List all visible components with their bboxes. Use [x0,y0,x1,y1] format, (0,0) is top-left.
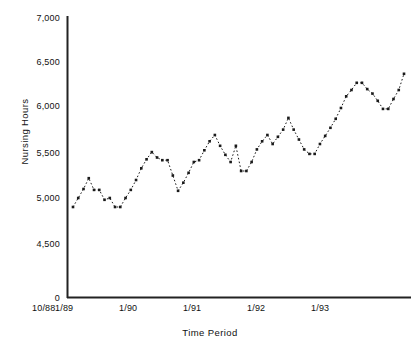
data-point [340,107,343,110]
data-point [182,181,185,184]
data-point [214,134,217,137]
data-point [324,135,327,138]
data-point [240,170,243,173]
data-point [371,92,374,95]
data-point [277,136,280,139]
data-point [156,156,159,159]
data-point [87,177,90,180]
data-point [256,148,259,151]
data-point [250,161,253,164]
data-point [172,174,175,177]
data-point [166,159,169,162]
data-point [72,206,75,209]
data-point [376,100,379,103]
data-point [119,206,122,209]
data-series-nursing-hours [72,73,406,209]
data-point [361,82,364,85]
data-point [103,199,106,202]
data-point [203,149,206,152]
data-point [108,197,111,200]
data-point [345,95,348,98]
data-point [82,188,85,191]
data-point [282,128,285,131]
data-point [193,161,196,164]
data-point [224,154,227,157]
data-point [319,143,322,146]
data-point [198,159,201,162]
data-point [292,128,295,131]
data-point [124,197,127,200]
data-point [287,117,290,120]
plot-area [0,0,420,345]
data-point [151,151,154,154]
data-point [271,143,274,146]
data-point [235,145,238,148]
data-point [98,189,101,192]
data-point [93,189,96,192]
nursing-hours-chart: Nursing Hours 7,000 6,500 6,000 5,500 5,… [0,0,420,345]
data-point [208,140,211,143]
data-point [403,73,406,76]
data-point [392,98,395,101]
data-point [355,82,358,85]
series-polyline [73,74,404,207]
data-point [387,108,390,111]
data-point [77,197,80,200]
data-point [261,140,264,143]
data-point [219,145,222,148]
data-point [308,153,311,156]
data-point [266,134,269,137]
data-point [145,158,148,161]
data-point [161,159,164,162]
data-point [298,138,301,141]
data-point [187,172,190,175]
data-point [114,206,117,209]
data-point [245,170,248,173]
data-point [135,179,138,182]
data-point [303,148,306,151]
data-point [229,161,232,164]
data-point [129,189,132,192]
data-point [177,190,180,193]
data-point [397,89,400,92]
data-point [382,108,385,111]
series-markers [72,73,406,209]
data-point [334,118,337,121]
data-point [329,127,332,130]
data-point [313,153,316,156]
data-point [140,167,143,170]
data-point [366,88,369,91]
data-point [350,89,353,92]
